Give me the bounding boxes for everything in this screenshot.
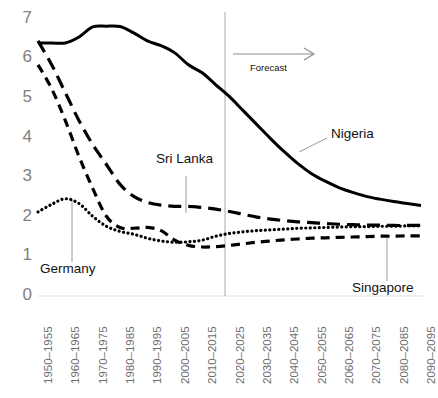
x-tick-label-1960-1965: 1960–1965 bbox=[70, 326, 82, 384]
series-label-singapore: Singapore bbox=[352, 281, 414, 295]
x-tick-label-2000-2005: 2000–2005 bbox=[180, 326, 192, 384]
series-line-germany bbox=[38, 199, 421, 242]
leader-line-nigeria bbox=[299, 138, 327, 152]
x-tick-label-2090-2095: 2090–2095 bbox=[426, 326, 438, 384]
x-tick-label-1970-1975: 1970–1975 bbox=[98, 326, 110, 384]
series-label-srilanka: Sri Lanka bbox=[156, 152, 213, 166]
x-tick-label-2040-2045: 2040–2045 bbox=[289, 326, 301, 384]
x-tick-label-2060-2065: 2060–2065 bbox=[344, 326, 356, 384]
x-tick-label-2020-2025: 2020–2025 bbox=[235, 326, 247, 384]
x-tick-label-1980-1985: 1980–1985 bbox=[125, 326, 137, 384]
series-label-nigeria: Nigeria bbox=[331, 127, 374, 141]
x-tick-label-2080-2085: 2080–2085 bbox=[399, 326, 411, 384]
forecast-arrow-icon bbox=[233, 48, 314, 60]
x-tick-label-1990-1995: 1990–1995 bbox=[152, 326, 164, 384]
x-tick-label-1950-1955: 1950–1955 bbox=[43, 326, 55, 384]
x-tick-label-2010-2015: 2010–2015 bbox=[207, 326, 219, 384]
series-label-germany: Germany bbox=[40, 262, 96, 276]
x-tick-label-2070-2075: 2070–2075 bbox=[371, 326, 383, 384]
forecast-label: Forecast bbox=[250, 63, 287, 73]
x-tick-label-2050-2055: 2050–2055 bbox=[317, 326, 329, 384]
series-line-nigeria bbox=[38, 26, 421, 206]
x-tick-label-2030-2035: 2030–2035 bbox=[262, 326, 274, 384]
